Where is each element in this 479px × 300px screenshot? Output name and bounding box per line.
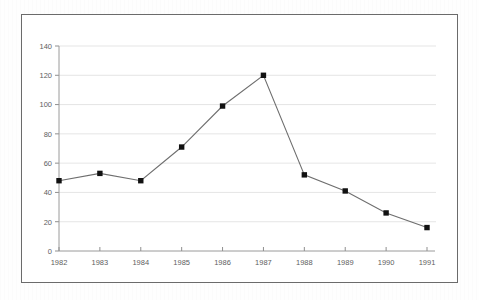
y-tick-label: 0 bbox=[48, 247, 52, 256]
line-chart: 020406080100120140 198219831984198519861… bbox=[22, 15, 457, 282]
x-tick-label: 1984 bbox=[132, 258, 149, 267]
x-tick-label: 1982 bbox=[51, 258, 68, 267]
gridlines-group bbox=[59, 46, 436, 222]
x-tick-label: 1986 bbox=[214, 258, 231, 267]
data-point-marker bbox=[97, 171, 102, 176]
y-axis-group: 020406080100120140 bbox=[39, 42, 59, 256]
x-tick-label: 1988 bbox=[296, 258, 313, 267]
chart-canvas: 020406080100120140 198219831984198519861… bbox=[22, 15, 459, 284]
x-tick-label: 1990 bbox=[378, 258, 395, 267]
y-tick-label: 60 bbox=[44, 159, 52, 168]
page-root: 020406080100120140 198219831984198519861… bbox=[0, 0, 479, 300]
data-point-marker bbox=[343, 188, 348, 193]
y-tick-label: 140 bbox=[39, 42, 52, 51]
series-group bbox=[56, 73, 429, 231]
data-point-marker bbox=[56, 178, 61, 183]
y-tick-label: 120 bbox=[39, 71, 52, 80]
y-tick-label: 40 bbox=[44, 188, 52, 197]
series-line bbox=[59, 75, 427, 227]
data-point-marker bbox=[424, 225, 429, 230]
x-tick-label: 1989 bbox=[337, 258, 354, 267]
x-axis-group: 1982198319841985198619871988198919901991 bbox=[51, 247, 436, 267]
data-point-marker bbox=[261, 73, 266, 78]
chart-frame-border: 020406080100120140 198219831984198519861… bbox=[21, 14, 458, 283]
y-tick-label: 20 bbox=[44, 218, 52, 227]
x-tick-label: 1983 bbox=[92, 258, 109, 267]
data-point-marker bbox=[383, 210, 388, 215]
data-point-marker bbox=[179, 144, 184, 149]
data-point-marker bbox=[220, 103, 225, 108]
y-tick-label: 100 bbox=[39, 100, 52, 109]
x-tick-label: 1991 bbox=[419, 258, 436, 267]
x-tick-label: 1987 bbox=[255, 258, 272, 267]
x-tick-label: 1985 bbox=[173, 258, 190, 267]
y-tick-label: 80 bbox=[44, 130, 52, 139]
data-point-marker bbox=[302, 172, 307, 177]
data-point-marker bbox=[138, 178, 143, 183]
